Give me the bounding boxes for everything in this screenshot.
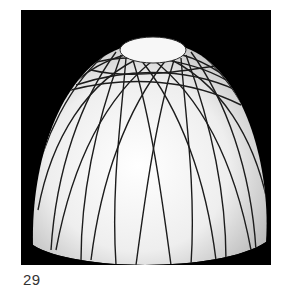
figure-caption-number: 29 bbox=[23, 271, 41, 288]
dome-top-opening bbox=[120, 37, 186, 63]
dome-figure bbox=[21, 10, 271, 265]
dome-rendering bbox=[21, 10, 271, 265]
